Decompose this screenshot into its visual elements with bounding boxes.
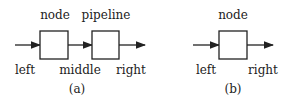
caption-a: (a) <box>69 82 86 96</box>
node-box <box>40 31 68 59</box>
diagram-b <box>193 31 273 59</box>
node-box <box>219 31 247 59</box>
label-node-a: node <box>40 8 70 22</box>
label-node-b: node <box>218 8 248 22</box>
label-middle: middle <box>59 63 101 77</box>
label-right-a: right <box>116 63 146 77</box>
pipeline-box <box>92 31 119 59</box>
label-right-b: right <box>248 63 278 77</box>
label-left-a: left <box>15 63 35 77</box>
label-left-b: left <box>196 63 216 77</box>
label-pipeline: pipeline <box>82 8 131 22</box>
diagram-a <box>15 31 145 59</box>
caption-b: (b) <box>224 82 241 96</box>
